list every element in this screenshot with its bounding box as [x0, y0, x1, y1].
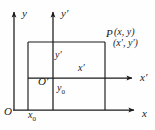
- origin-label-o-prime: O′: [38, 76, 48, 87]
- offset-y0-subscript: 0: [61, 88, 65, 96]
- coordinate-diagram: y y′ x x′ P (x, y) (x′, y′) y′ x′ O′ O y…: [0, 0, 155, 130]
- offset-x0-subscript: 0: [32, 115, 36, 123]
- axis-label-y-prime: y′: [61, 8, 68, 19]
- axis-label-x: x: [142, 108, 147, 119]
- axis-label-y: y: [22, 8, 27, 19]
- offset-label-x0: x0: [28, 110, 36, 123]
- origin-label-o: O: [4, 106, 12, 117]
- point-label-p: P: [106, 28, 113, 39]
- segment-label-x-prime: x′: [78, 63, 85, 73]
- segment-label-y-prime: y′: [55, 50, 62, 60]
- offset-label-y0: y0: [57, 83, 65, 96]
- point-coords-primed: (x′, y′): [113, 38, 138, 48]
- axis-label-x-prime: x′: [140, 72, 147, 83]
- point-coords-unprimed: (x, y): [114, 27, 135, 37]
